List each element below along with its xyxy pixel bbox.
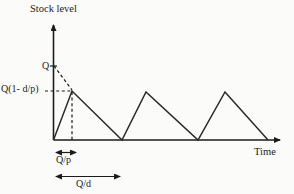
diagram-canvas bbox=[0, 0, 294, 194]
label-order-quantity: Q bbox=[42, 61, 49, 71]
x-axis-title: Time bbox=[254, 147, 276, 158]
dashed-guide-q-slope bbox=[54, 66, 72, 90]
label-cycle-time: Q/d bbox=[76, 179, 91, 189]
label-production-time: Q/p bbox=[56, 155, 71, 165]
label-max-stock-level: Q(1- d/p) bbox=[1, 84, 39, 94]
inventory-level-curve bbox=[54, 91, 269, 140]
y-axis-title: Stock level bbox=[30, 4, 77, 15]
stock-level-diagram: Stock level Time Q Q(1- d/p) Q/p Q/d bbox=[0, 0, 294, 194]
